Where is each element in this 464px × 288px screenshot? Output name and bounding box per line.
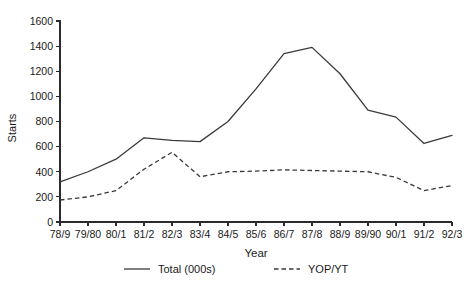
x-tick-label: 80/1 [106,228,127,240]
y-tick-label: 1000 [30,90,54,102]
chart-canvas: 02004006008001000120014001600 78/979/808… [0,0,464,288]
y-tick-label: 0 [47,216,53,228]
x-tick-label: 90/1 [386,228,407,240]
x-tick-label: 82/3 [162,228,183,240]
x-tick-label: 88/9 [330,228,351,240]
series-line-total [60,47,452,181]
x-tick-label: 87/8 [302,228,323,240]
series-line-yop-yt [60,152,452,200]
y-tick-label: 1200 [30,65,54,77]
legend-label: Total (000s) [158,263,215,275]
x-tick-label: 89/90 [355,228,381,240]
y-tick-label: 1400 [30,40,54,52]
x-tick-label: 83/4 [190,228,211,240]
x-tick-label: 79/80 [75,228,101,240]
y-tick-label: 1600 [30,15,54,27]
x-tick-label: 81/2 [134,228,155,240]
y-axis-title: Starts [6,113,18,142]
x-axis-title: Year [244,247,267,259]
legend-label: YOP/YT [308,263,349,275]
line-chart: 02004006008001000120014001600 78/979/808… [0,0,464,288]
x-tick-label: 86/7 [274,228,295,240]
y-tick-label: 200 [35,191,53,203]
y-tick-label: 800 [35,115,53,127]
y-tick-marks [56,21,60,222]
chart-legend: Total (000s)YOP/YT [124,263,349,275]
y-tick-label: 600 [35,140,53,152]
x-tick-label: 92/3 [442,228,463,240]
y-tick-label: 400 [35,166,53,178]
x-tick-marks [60,222,452,226]
x-tick-labels: 78/979/8080/181/282/383/484/585/686/787/… [50,228,463,240]
x-tick-label: 85/6 [246,228,267,240]
y-axis: 02004006008001000120014001600 [30,15,60,228]
x-axis: 78/979/8080/181/282/383/484/585/686/787/… [50,222,463,240]
x-tick-label: 84/5 [218,228,239,240]
plot-series [60,47,452,200]
x-tick-label: 78/9 [50,228,71,240]
y-tick-labels: 02004006008001000120014001600 [30,15,54,228]
x-tick-label: 91/2 [414,228,435,240]
